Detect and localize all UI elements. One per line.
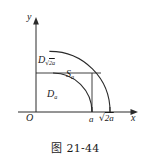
region-label-d-root2a-sub-text: 2a (49, 59, 55, 66)
y-axis-label: y (27, 12, 31, 22)
region-label-d-a-subscript: a (54, 93, 57, 100)
outer-quarter-arc (49, 51, 110, 112)
y-axis-arrow-icon (33, 17, 39, 25)
region-label-d-a: Da (47, 89, 57, 100)
x-tick-label-root2a: √2a (99, 114, 114, 123)
geometry-diagram (0, 0, 151, 160)
x-tick-label-a: a (89, 115, 94, 124)
x-axis-label: x (131, 113, 135, 123)
figure-caption: 图 21-44 (0, 139, 151, 155)
x-tick-label-root2a-text: 2a (105, 113, 114, 123)
region-label-s-a-subscript: a (71, 73, 74, 80)
region-label-s-a: Sa (66, 69, 74, 80)
origin-label: O (26, 113, 33, 123)
region-label-d-root2a: D√2a (38, 55, 55, 66)
region-label-d-root2a-subscript: √2a (45, 59, 55, 66)
figure-container: y x O a √2a D√2a Sa Da 图 21-44 (0, 0, 151, 160)
